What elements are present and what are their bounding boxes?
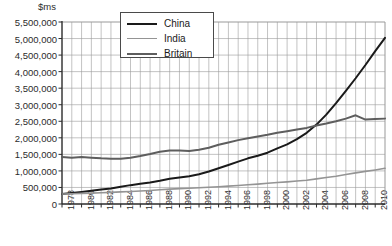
legend-label-britain: Britain bbox=[164, 48, 192, 59]
line-chart: $ms 5,500,0005,000,0004,500,0004,000,000… bbox=[0, 0, 392, 246]
legend-label-india: India bbox=[164, 33, 186, 44]
legend-item-britain[interactable]: Britain bbox=[127, 48, 192, 59]
axis-ticks bbox=[59, 22, 376, 208]
legend-swatch-india bbox=[127, 38, 157, 39]
legend-swatch-britain bbox=[127, 53, 157, 55]
legend-swatch-china bbox=[127, 23, 157, 25]
legend-item-china[interactable]: China bbox=[127, 18, 190, 29]
legend-label-china: China bbox=[164, 18, 190, 29]
legend-item-india[interactable]: India bbox=[127, 33, 186, 44]
chart-legend: ChinaIndiaBritain bbox=[120, 12, 214, 58]
series-line-india bbox=[62, 168, 385, 194]
series-line-britain bbox=[62, 115, 385, 158]
